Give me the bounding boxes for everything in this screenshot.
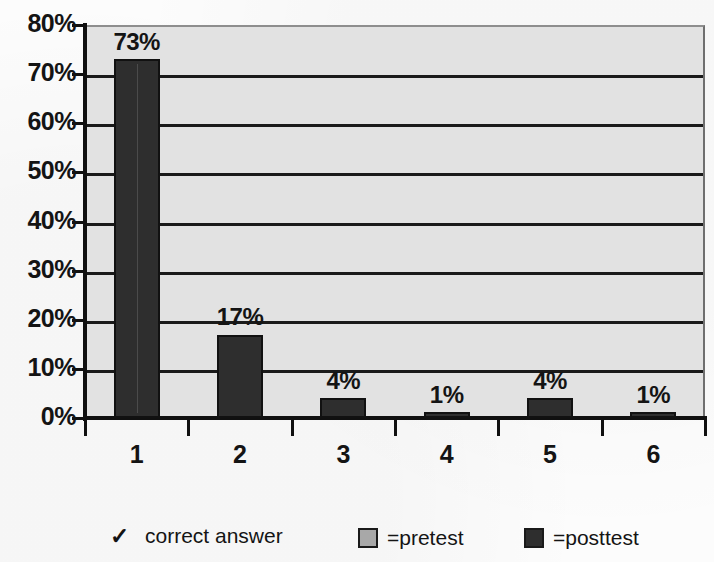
x-tick-mark [497,420,500,436]
y-tick-label: 50% [0,156,76,185]
chart-legend: ✓ correct answer =pretest =posttest [0,516,714,558]
bar [217,335,263,419]
y-tick-label: 0% [0,402,76,431]
x-tick-mark [291,420,294,436]
gridline [85,321,703,324]
legend-correct-answer: ✓ correct answer [110,524,283,548]
bar [527,398,573,418]
x-tick-mark [704,420,707,436]
check-icon: ✓ [110,525,129,548]
pretest-swatch-icon [358,528,378,548]
bar-value-label: 1% [603,381,703,409]
bar [320,398,366,418]
x-tick-label: 5 [510,440,590,469]
legend-entry-posttest-label: =posttest [553,526,639,550]
x-tick-mark [84,420,87,436]
posttest-swatch-icon [524,528,544,548]
y-tick-label: 70% [0,58,76,87]
bar [114,59,160,418]
gridline [85,75,703,78]
bar-chart: 0%10%20%30%40%50%60%70%80% 123456 73%17%… [0,0,714,562]
gridline [85,272,703,275]
bar-value-label: 4% [293,367,393,395]
gridline [85,370,703,373]
y-tick-label: 10% [0,353,76,382]
x-tick-label: 3 [303,440,383,469]
bar [424,412,470,418]
y-tick-label: 30% [0,255,76,284]
x-tick-label: 4 [407,440,487,469]
gridline [85,173,703,176]
x-tick-mark [394,420,397,436]
x-tick-mark [601,420,604,436]
x-tick-label: 1 [97,440,177,469]
gridline [85,124,703,127]
legend-entry-posttest: =posttest [524,526,639,550]
x-tick-label: 6 [613,440,693,469]
y-tick-label: 60% [0,107,76,136]
x-tick-mark [187,420,190,436]
y-tick-label: 20% [0,304,76,333]
x-tick-label: 2 [200,440,280,469]
bar-value-label: 73% [87,28,187,56]
legend-correct-answer-label: correct answer [145,524,283,548]
bar [630,412,676,418]
y-tick-label: 80% [0,9,76,38]
legend-entry-pretest-label: =pretest [387,526,463,550]
bar-value-label: 17% [190,303,290,331]
bar-value-label: 1% [397,381,497,409]
bar-value-label: 4% [500,367,600,395]
plot-area [85,25,705,418]
legend-entry-pretest: =pretest [358,526,463,550]
gridline [85,223,703,226]
y-tick-label: 40% [0,206,76,235]
